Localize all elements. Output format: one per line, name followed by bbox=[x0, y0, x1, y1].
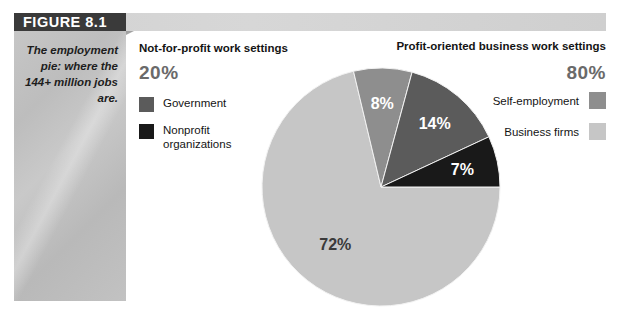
figure-canvas: FIGURE 8.1 The employment pie: where the… bbox=[0, 0, 621, 321]
legend-swatch-icon bbox=[589, 92, 606, 109]
pie-slice-label: 8% bbox=[371, 95, 394, 112]
legend-not-for-profit: GovernmentNonprofit organizations bbox=[139, 96, 259, 162]
legend-item-label: Government bbox=[163, 96, 226, 110]
legend-swatch-icon bbox=[589, 123, 606, 140]
legend-item: Nonprofit organizations bbox=[139, 123, 259, 151]
legend-swatch-icon bbox=[139, 124, 154, 139]
left-column-heading: Not-for-profit work settings bbox=[139, 42, 288, 54]
legend-item-label: Nonprofit organizations bbox=[163, 123, 259, 151]
left-column-total-percent: 20% bbox=[139, 62, 179, 84]
figure-number-tab: FIGURE 8.1 bbox=[14, 13, 126, 31]
pie-chart-svg: 72%8%14%7% bbox=[258, 63, 508, 313]
legend-item-label: Business firms bbox=[504, 125, 579, 139]
pie-slice-label: 7% bbox=[451, 161, 474, 178]
pie-slice-label: 14% bbox=[419, 115, 451, 132]
right-column-heading: Profit-oriented business work settings bbox=[396, 40, 606, 52]
legend-swatch-icon bbox=[139, 97, 154, 112]
pie-chart: 72%8%14%7% bbox=[258, 63, 508, 313]
right-column-total-percent: 80% bbox=[566, 62, 606, 84]
figure-caption: The employment pie: where the 144+ milli… bbox=[14, 42, 118, 106]
legend-item: Government bbox=[139, 96, 259, 112]
pie-slice-label: 72% bbox=[319, 236, 351, 253]
